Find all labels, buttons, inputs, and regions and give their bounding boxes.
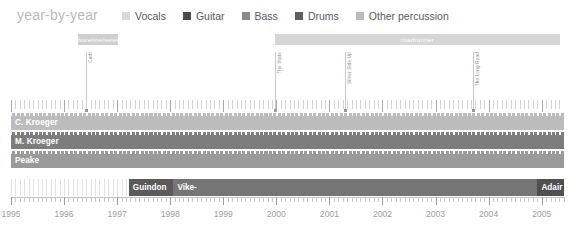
ruler-tick: [188, 100, 189, 109]
hatch-tick: [334, 151, 335, 154]
ruler-tick: [153, 100, 154, 109]
hatch-tick: [467, 132, 468, 135]
hatch-tick: [391, 132, 392, 135]
label-band-text: roadrunner: [401, 36, 434, 43]
axis-tick: [33, 197, 34, 202]
ruler-tick: [413, 100, 414, 109]
hatch-tick: [298, 132, 299, 135]
hatch-tick: [444, 151, 445, 154]
ruler-tick: [214, 100, 215, 109]
axis-tick: [20, 197, 21, 202]
ruler-tick: [55, 100, 56, 109]
hatch-tick: [347, 151, 348, 154]
axis-tick: [396, 197, 397, 202]
drummer-segment-label: Guindon: [133, 183, 167, 192]
row-label: M. Kroeger: [15, 136, 59, 145]
axis-tick: [126, 197, 127, 202]
hatch-tick: [153, 132, 154, 135]
hatch-tick: [497, 113, 498, 116]
hatch-tick: [232, 132, 233, 135]
hatch-tick: [135, 151, 136, 154]
ruler-tick: [325, 100, 326, 109]
empty-month-tick: [95, 179, 96, 196]
hatch-tick: [197, 113, 198, 116]
hatch-tick: [502, 151, 503, 154]
ruler-tick: [166, 100, 167, 109]
hatch-tick: [161, 151, 162, 154]
axis-tick: [153, 197, 154, 202]
hatch-tick: [24, 151, 25, 154]
hatch-tick: [73, 113, 74, 116]
axis-tick: [144, 197, 145, 202]
hatch-tick: [237, 113, 238, 116]
legend-item-bass: Bass: [242, 10, 278, 22]
axis-tick-label: 2004: [479, 209, 498, 219]
ruler-tick: [130, 100, 131, 109]
hatch-tick: [148, 113, 149, 116]
axis-tick-label: 1999: [214, 209, 233, 219]
axis-tick: [214, 197, 215, 202]
axis-tick: [418, 197, 419, 202]
axis-tick-label: 2003: [426, 209, 445, 219]
axis-tick: [104, 197, 105, 202]
ruler-tick: [91, 100, 92, 109]
hatch-tick: [471, 151, 472, 154]
hatch-tick: [515, 151, 516, 154]
axis-tick: [122, 197, 123, 202]
hatch-tick: [418, 113, 419, 116]
top-ruler: [11, 100, 564, 112]
hatch-tick: [192, 132, 193, 135]
hatch-tick: [537, 132, 538, 135]
hatch-tick: [511, 151, 512, 154]
hatch-tick: [294, 151, 295, 154]
hatch-tick: [99, 113, 100, 116]
hatch-tick: [250, 113, 251, 116]
hatch-tick: [29, 132, 30, 135]
hatch-tick: [400, 151, 401, 154]
hatch-tick: [201, 113, 202, 116]
hatch-tick: [38, 151, 39, 154]
hatch-tick: [68, 151, 69, 154]
ruler-tick: [422, 100, 423, 109]
ruler-tick: [170, 100, 171, 112]
hatch-tick: [20, 132, 21, 135]
hatch-tick: [440, 113, 441, 116]
ruler-tick: [387, 100, 388, 109]
empty-month-tick: [51, 179, 52, 196]
hatch-tick: [506, 132, 507, 135]
axis-tick-label: 2000: [267, 209, 286, 219]
hatch-tick: [86, 113, 87, 116]
hatch-tick: [268, 113, 269, 116]
axis-tick: [471, 197, 472, 202]
hatch-tick: [506, 151, 507, 154]
hatch-tick: [400, 132, 401, 135]
ruler-tick: [11, 100, 12, 112]
empty-month-tick: [77, 179, 78, 196]
hatch-tick: [241, 151, 242, 154]
ruler-tick: [51, 100, 52, 109]
hatch-tick: [382, 132, 383, 135]
axis-tick: [161, 197, 162, 202]
hatch-tick: [475, 151, 476, 154]
hatch-tick: [427, 151, 428, 154]
ruler-tick: [497, 100, 498, 109]
hatch-tick: [254, 113, 255, 116]
hatch-tick: [321, 151, 322, 154]
ruler-tick: [338, 100, 339, 109]
ruler-tick: [15, 100, 16, 109]
ruler-tick: [126, 100, 127, 109]
hatch-tick: [285, 151, 286, 154]
hatch-tick: [497, 151, 498, 154]
ruler-tick: [290, 100, 291, 109]
ruler-tick: [219, 100, 220, 109]
drummer-segment: Adair: [537, 179, 564, 196]
axis-tick: [542, 197, 543, 205]
hatch-tick: [312, 151, 313, 154]
hatch-tick: [515, 132, 516, 135]
hatch-tick: [551, 132, 552, 135]
axis-tick: [245, 197, 246, 202]
hatch-tick: [219, 132, 220, 135]
hatch-tick: [108, 132, 109, 135]
axis-tick: [135, 197, 136, 202]
hatch-tick: [436, 113, 437, 116]
